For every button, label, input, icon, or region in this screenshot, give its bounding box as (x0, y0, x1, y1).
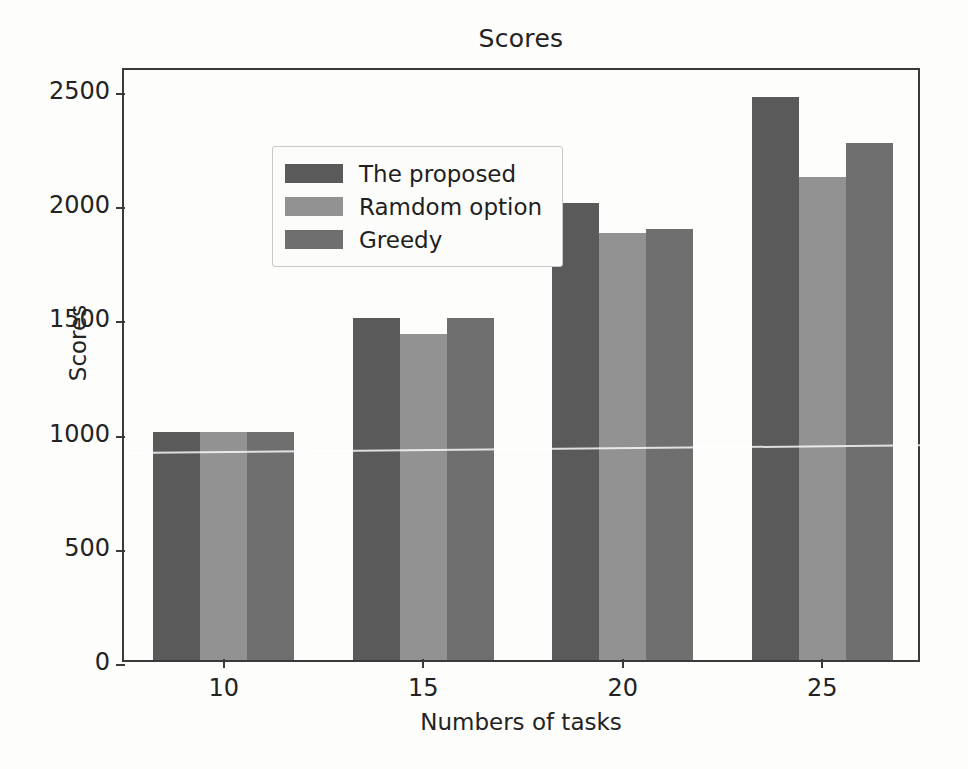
x-tick-label: 10 (184, 674, 264, 702)
bar (646, 229, 693, 660)
y-tick-label: 0 (95, 648, 110, 676)
x-axis-label: Numbers of tasks (122, 709, 920, 735)
bar (447, 318, 494, 660)
legend-item: The proposed (285, 157, 542, 190)
y-tick-label: 500 (64, 534, 110, 562)
y-tick-mark (116, 207, 125, 209)
y-tick-mark (116, 664, 125, 666)
plot-area: 05001000150020002500 10152025 The propos… (122, 68, 920, 662)
legend-item: Greedy (285, 223, 542, 256)
y-tick-mark (116, 93, 125, 95)
bar (799, 177, 846, 660)
legend-label: Greedy (359, 227, 442, 253)
x-tick-mark (223, 659, 225, 668)
legend-swatch-icon (285, 197, 343, 216)
x-tick-mark (422, 659, 424, 668)
legend-label: Ramdom option (359, 194, 542, 220)
bar (752, 97, 799, 660)
legend-item: Ramdom option (285, 190, 542, 223)
y-tick-label: 2500 (49, 77, 110, 105)
bar (599, 233, 646, 660)
y-axis-label: Scores (65, 253, 91, 433)
bar (200, 432, 247, 660)
y-tick-mark (116, 550, 125, 552)
bar (247, 432, 294, 660)
legend-label: The proposed (359, 161, 516, 187)
chart-title: Scores (122, 24, 920, 53)
x-tick-label: 25 (782, 674, 862, 702)
x-tick-mark (622, 659, 624, 668)
x-tick-mark (821, 659, 823, 668)
y-tick-label: 2000 (49, 191, 110, 219)
chart-legend: The proposedRamdom optionGreedy (272, 146, 563, 267)
y-tick-mark (116, 436, 125, 438)
legend-swatch-icon (285, 230, 343, 249)
bar (846, 143, 893, 660)
bar (400, 334, 447, 660)
bar (353, 318, 400, 660)
y-tick-mark (116, 321, 125, 323)
x-tick-label: 15 (383, 674, 463, 702)
bar (153, 432, 200, 660)
chart-figure: Scores 05001000150020002500 10152025 The… (0, 0, 968, 769)
bar (552, 203, 599, 660)
legend-swatch-icon (285, 164, 343, 183)
x-tick-label: 20 (583, 674, 663, 702)
